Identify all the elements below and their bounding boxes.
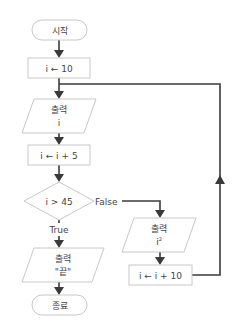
output-square-exponent: 2 — [159, 236, 162, 242]
output-i-line2: i — [58, 118, 61, 128]
connector-init-output — [54, 78, 64, 99]
flowchart-svg: 시작 i ← 10 출력 i i ← i + 5 i > 45 True Fal… — [0, 0, 234, 334]
output-i-line1: 출력 — [51, 104, 67, 115]
connector-add5-decision — [54, 165, 64, 182]
add10-process-box: i ← i + 10 — [129, 265, 192, 285]
end-label: 종료 — [52, 301, 68, 311]
connector-outputsq-add10 — [155, 252, 165, 265]
init-process-box: i ← 10 — [28, 58, 90, 78]
true-branch-label: True — [48, 225, 69, 235]
init-label: i ← 10 — [45, 64, 72, 74]
false-branch-label: False — [95, 197, 118, 207]
add5-label: i ← i + 5 — [40, 151, 77, 161]
start-terminal: 시작 — [32, 20, 87, 40]
output-i-io: 출력 i — [22, 99, 96, 133]
connector-outputend-end — [54, 282, 64, 295]
connector-false-branch — [122, 201, 165, 218]
output-end-io: 출력 "끝" — [22, 248, 104, 282]
decision-label: i > 45 — [45, 197, 72, 207]
start-label: 시작 — [52, 26, 68, 36]
output-end-line2: "끝" — [55, 267, 71, 277]
output-square-line1: 출력 — [151, 223, 167, 234]
output-square-io: 출력 i2 — [122, 218, 196, 252]
output-end-line1: 출력 — [55, 253, 71, 264]
add5-process-box: i ← i + 5 — [28, 145, 90, 165]
connector-start-init — [54, 40, 64, 58]
connector-output-add5 — [54, 133, 64, 145]
flowchart-canvas: 시작 i ← 10 출력 i i ← i + 5 i > 45 True Fal… — [0, 0, 234, 334]
add10-label: i ← i + 10 — [139, 271, 182, 281]
end-terminal: 종료 — [32, 295, 87, 315]
decision-diamond: i > 45 — [24, 182, 94, 220]
